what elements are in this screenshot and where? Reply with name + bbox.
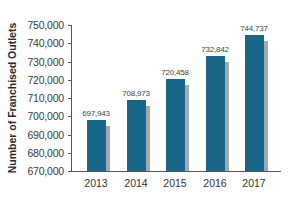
x-axis-line [71, 171, 281, 172]
data-label: 732,842 [201, 45, 229, 54]
y-tick-label: 710,000 [27, 92, 64, 104]
bar-shadow [264, 41, 268, 171]
bar-2014 [127, 100, 146, 171]
y-tick-label: 740,000 [27, 37, 64, 49]
y-tick-label: 670,000 [27, 165, 64, 177]
y-tick-mark [68, 171, 72, 172]
y-tick-mark [68, 62, 72, 63]
bar-shadow [225, 62, 229, 171]
bar-2013 [87, 120, 106, 171]
y-tick-label: 750,000 [27, 19, 64, 31]
data-label: 697,943 [82, 109, 110, 118]
y-tick-mark [68, 98, 72, 99]
bar-2015 [166, 79, 185, 171]
y-tick-label: 690,000 [27, 129, 64, 141]
y-axis-label: Number of Franchised Outlets [6, 23, 18, 174]
y-tick-label: 700,000 [27, 110, 64, 122]
bar-shadow [185, 85, 189, 171]
y-tick-mark [68, 80, 72, 81]
y-tick-mark [68, 25, 72, 26]
x-tick-label: 2014 [124, 177, 147, 189]
x-tick-label: 2013 [84, 177, 107, 189]
franchised-outlets-bar-chart: Number of Franchised Outlets 670,000680,… [0, 0, 296, 203]
y-tick-mark [68, 135, 72, 136]
bar-2016 [206, 56, 225, 171]
bar-shadow [106, 126, 110, 171]
bar-2017 [245, 35, 264, 171]
x-tick-label: 2015 [163, 177, 186, 189]
y-tick-label: 730,000 [27, 56, 64, 68]
x-tick-label: 2017 [242, 177, 265, 189]
y-tick-label: 680,000 [27, 147, 64, 159]
data-label: 744,737 [240, 24, 268, 33]
y-tick-mark [68, 43, 72, 44]
data-label: 720,458 [161, 68, 189, 77]
y-tick-mark [68, 116, 72, 117]
x-tick-label: 2016 [203, 177, 226, 189]
data-label: 708,973 [122, 89, 150, 98]
bar-shadow [146, 106, 150, 171]
y-tick-mark [68, 153, 72, 154]
y-tick-label: 720,000 [27, 74, 64, 86]
